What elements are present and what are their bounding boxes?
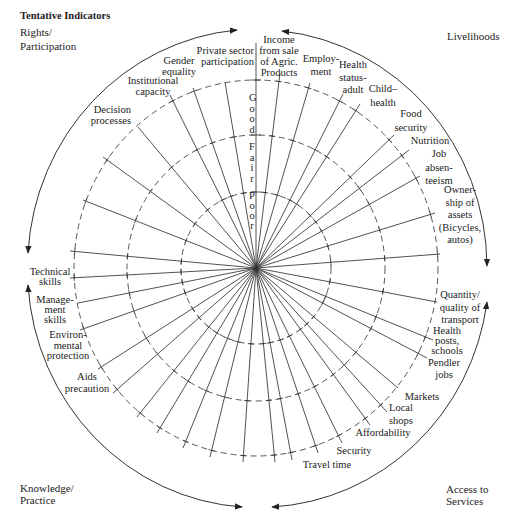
indicator-spoke bbox=[256, 268, 342, 443]
spoke-tick bbox=[172, 369, 177, 373]
indicator-label-food-security: Food security bbox=[388, 107, 434, 135]
quadrant-label-line: Participation bbox=[20, 39, 76, 53]
spoke-tick bbox=[324, 155, 329, 158]
quadrant-label-livelihoods: Livelihoods bbox=[447, 30, 500, 42]
indicator-label-affordability: Affordability bbox=[350, 427, 416, 438]
indicator-label-environmental-protection: Environ- mental protection bbox=[40, 330, 96, 362]
indicator-spoke bbox=[83, 200, 256, 268]
indicator-label-line: Security bbox=[332, 445, 376, 456]
indicator-spoke bbox=[256, 268, 387, 412]
spoke-tick bbox=[417, 351, 420, 356]
indicator-spoke bbox=[138, 127, 256, 268]
indicator-spoke bbox=[256, 176, 420, 268]
indicator-label-income-agric-products: Income from sale of Agric. Products bbox=[254, 34, 304, 78]
indicator-label-line: of Agric. bbox=[254, 56, 304, 67]
indicator-label-line: Quantity/ bbox=[434, 289, 486, 302]
spoke-tick bbox=[415, 176, 418, 181]
spoke-tick bbox=[269, 136, 275, 137]
indicator-label-private-sector-participation: Private sector participation bbox=[186, 45, 254, 67]
indicator-spoke bbox=[256, 104, 360, 268]
indicator-label-line: precaution bbox=[60, 383, 114, 395]
spoke-tick bbox=[207, 325, 212, 329]
indicator-label-technical-skills: Technical skills bbox=[24, 267, 76, 287]
indicator-label-line: skills bbox=[32, 315, 78, 325]
quadrant-label-line: Services bbox=[446, 495, 488, 507]
indicator-label-health-posts-schools: Health posts, schools bbox=[426, 326, 468, 356]
spoke-tick bbox=[278, 398, 284, 399]
indicator-label-line: Income bbox=[254, 34, 304, 45]
indicator-label-line: Health bbox=[332, 59, 374, 72]
spoke-tick bbox=[276, 81, 282, 82]
indicator-spoke bbox=[243, 268, 256, 462]
indicator-label-line: jobs bbox=[422, 369, 466, 381]
indicator-label-security: Security bbox=[332, 445, 376, 456]
indicator-spoke bbox=[157, 268, 256, 433]
spoke-tick bbox=[298, 328, 303, 332]
indicator-label-line: schools bbox=[426, 346, 468, 356]
indicator-spoke bbox=[256, 73, 280, 268]
spoke-tick bbox=[262, 192, 268, 193]
indicator-spoke bbox=[256, 268, 437, 302]
quadrant-label-line: Livelihoods bbox=[447, 30, 500, 42]
indicator-spoke bbox=[70, 268, 256, 278]
spoke-tick bbox=[231, 136, 237, 137]
quadrant-label-rights-participation: Rights/ Participation bbox=[20, 25, 76, 53]
spoke-tick bbox=[331, 373, 336, 377]
spoke-tick bbox=[384, 255, 385, 261]
indicator-label-line: protection bbox=[40, 351, 96, 362]
spoke-tick bbox=[314, 220, 318, 225]
indicator-label-line: Products bbox=[254, 67, 304, 78]
indicator-label-line: Aids bbox=[60, 371, 114, 383]
indicator-label-line: Decision bbox=[78, 104, 131, 115]
indicator-label-line: security bbox=[388, 121, 434, 135]
indicator-label-line: skills bbox=[24, 277, 76, 287]
spoke-tick bbox=[215, 331, 220, 334]
spoke-tick bbox=[370, 326, 373, 331]
indicator-label-line: participation bbox=[186, 56, 254, 67]
indicator-spoke bbox=[113, 268, 256, 393]
indicator-label-line: Child– bbox=[362, 82, 404, 96]
spoke-tick bbox=[267, 342, 273, 343]
indicator-label-line: (Bicycles, bbox=[434, 222, 486, 235]
indicator-label-line: Private sector bbox=[186, 45, 254, 56]
indicator-wheel bbox=[0, 0, 509, 521]
spoke-tick bbox=[363, 417, 368, 421]
spoke-tick bbox=[321, 300, 324, 305]
spoke-tick bbox=[158, 426, 163, 429]
indicator-spoke bbox=[80, 268, 256, 330]
indicator-label-nutrition: Nutrition bbox=[406, 135, 454, 146]
indicator-label-travel-time: Travel time bbox=[298, 459, 356, 470]
quadrant-label-line: Practice bbox=[20, 494, 74, 506]
spoke-tick bbox=[186, 380, 191, 383]
spoke-tick bbox=[105, 158, 109, 163]
indicator-label-line: Travel time bbox=[298, 459, 356, 470]
indicator-spoke bbox=[256, 135, 394, 268]
indicator-label-line: assets bbox=[434, 209, 486, 222]
spoke-tick bbox=[271, 455, 277, 456]
spoke-tick bbox=[329, 279, 330, 285]
indicator-label-job-absenteeism: Job absen- teeism bbox=[418, 147, 460, 188]
quadrant-label-access-to-services: Access to Services bbox=[446, 483, 488, 507]
quadrant-label-knowledge-practice: Knowledge/ Practice bbox=[20, 482, 74, 506]
quadrant-label-line: Access to bbox=[446, 483, 488, 495]
indicator-spoke bbox=[103, 157, 256, 268]
indicator-spoke bbox=[183, 268, 256, 448]
indicator-spoke bbox=[256, 268, 398, 388]
indicator-spoke bbox=[256, 268, 292, 460]
quadrant-label-line: Knowledge/ bbox=[20, 482, 74, 494]
indicator-label-line: equality bbox=[158, 66, 200, 77]
indicator-label-line: autos) bbox=[434, 234, 486, 247]
indicator-spoke bbox=[170, 95, 256, 268]
indicator-label-line: processes bbox=[78, 115, 131, 126]
indicator-label-line: from sale bbox=[254, 45, 304, 56]
indicator-label-line: Affordability bbox=[350, 427, 416, 438]
indicator-label-transport: Quantity/ quality of transport bbox=[434, 289, 486, 327]
spoke-tick bbox=[241, 193, 247, 194]
indicator-label-line: Local bbox=[384, 401, 418, 414]
spoke-tick bbox=[288, 452, 294, 453]
spoke-tick bbox=[100, 364, 103, 369]
indicator-label-aids-precaution: Aids precaution bbox=[60, 371, 114, 395]
spoke-tick bbox=[382, 289, 383, 295]
indicator-label-line: quality of bbox=[434, 302, 486, 315]
indicator-label-local-shops: Local shops bbox=[384, 401, 418, 427]
